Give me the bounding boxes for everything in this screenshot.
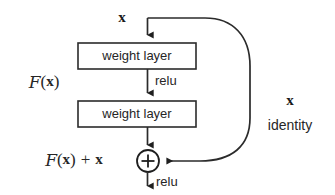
- add-operator: [137, 150, 159, 172]
- shortcut-curve: [148, 18, 251, 161]
- shortcut-var-label: x: [286, 92, 294, 108]
- weight-layer-1-label: weight layer: [101, 48, 172, 63]
- relu-out-label: relu: [156, 174, 178, 189]
- identity-shortcut-path: [148, 18, 251, 161]
- output-sum-label: F(x)+x: [44, 150, 103, 170]
- weight-layer-2-label: weight layer: [101, 106, 172, 121]
- output-sum-var2: x: [95, 151, 103, 167]
- output-sum-plus: +: [81, 150, 91, 169]
- input-label: x: [118, 9, 126, 25]
- relu-mid-connector: relu: [148, 69, 177, 93]
- residual-function-label: F(x): [28, 72, 60, 92]
- residual-block-canvas: x weight layer relu weight layer: [0, 0, 335, 195]
- residual-block-diagram: x weight layer relu weight layer: [0, 0, 335, 195]
- shortcut-identity-label: identity: [268, 117, 312, 133]
- relu-out-connector: relu: [148, 172, 178, 189]
- output-sum-close-paren: ): [70, 150, 76, 169]
- weight-layer-2-block: weight layer: [78, 101, 196, 127]
- residual-function-close-paren: ): [54, 72, 60, 91]
- weight-layer-1-block: weight layer: [78, 43, 196, 69]
- relu-mid-label: relu: [155, 73, 177, 88]
